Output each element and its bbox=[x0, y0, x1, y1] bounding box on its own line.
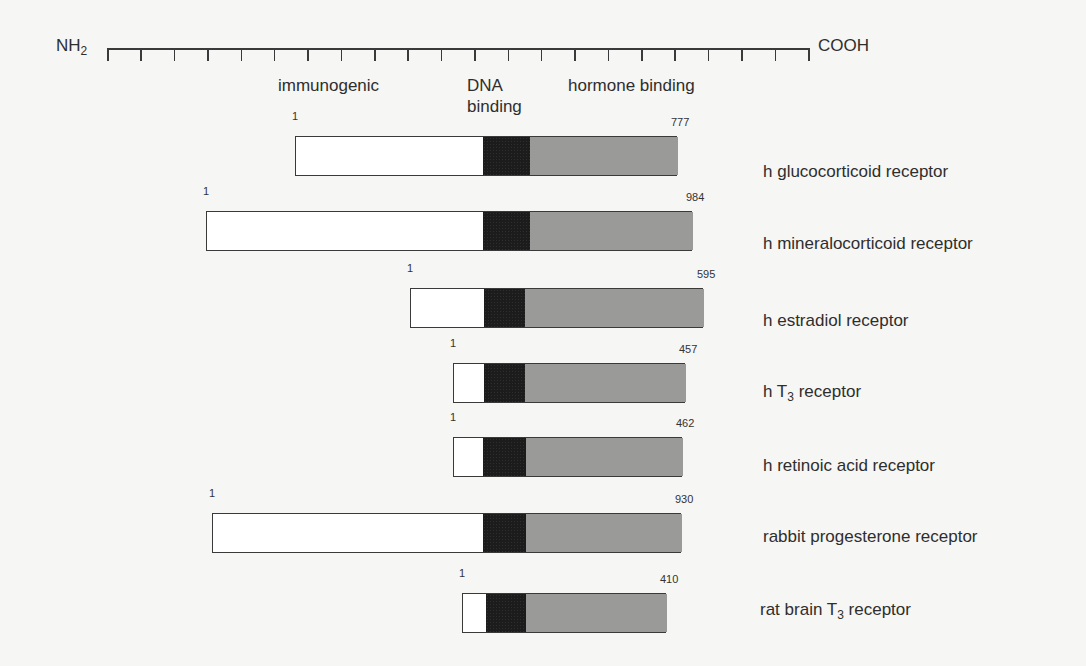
ruler-tick bbox=[541, 48, 543, 61]
ruler-tick bbox=[574, 48, 576, 61]
start-residue-number: 1 bbox=[209, 487, 215, 499]
ruler-tick bbox=[441, 48, 443, 61]
receptor-bar bbox=[462, 593, 666, 633]
hormone-binding-segment bbox=[526, 594, 667, 632]
ruler-tick bbox=[341, 48, 343, 61]
receptor-name-label: h estradiol receptor bbox=[763, 311, 909, 333]
immunogenic-segment bbox=[454, 364, 484, 402]
start-residue-number: 1 bbox=[407, 262, 413, 274]
hormone-binding-segment bbox=[530, 212, 693, 250]
start-residue-number: 1 bbox=[292, 110, 298, 122]
receptor-bar bbox=[453, 437, 682, 477]
receptor-name-label: h glucocorticoid receptor bbox=[763, 162, 948, 184]
receptor-bar bbox=[206, 211, 692, 251]
immunogenic-region-label: immunogenic bbox=[278, 75, 379, 96]
receptor-bar bbox=[453, 363, 685, 403]
receptor-name-label: h mineralocorticoid receptor bbox=[763, 234, 973, 256]
ruler-line bbox=[107, 48, 808, 50]
ruler-tick bbox=[508, 48, 510, 61]
receptor-name-label: rabbit progesterone receptor bbox=[763, 527, 978, 549]
receptor-name-label: rat brain T3 receptor bbox=[760, 600, 911, 622]
receptor-name-label: h retinoic acid receptor bbox=[763, 456, 935, 478]
ruler-tick bbox=[407, 48, 409, 61]
start-residue-number: 1 bbox=[203, 185, 209, 197]
dna-binding-segment bbox=[483, 137, 530, 175]
dna-binding-segment bbox=[484, 364, 525, 402]
ruler-tick bbox=[808, 48, 810, 61]
hormone-binding-region-label: hormone binding bbox=[568, 75, 695, 96]
dna-binding-segment bbox=[484, 289, 525, 327]
start-residue-number: 1 bbox=[450, 411, 456, 423]
start-residue-number: 1 bbox=[459, 567, 465, 579]
dna-binding-segment bbox=[483, 212, 530, 250]
end-residue-number: 777 bbox=[671, 116, 689, 128]
ruler-tick bbox=[140, 48, 142, 61]
immunogenic-segment bbox=[207, 212, 483, 250]
immunogenic-segment bbox=[454, 438, 483, 476]
dna-binding-region-label: DNA binding bbox=[467, 75, 522, 117]
immunogenic-segment bbox=[213, 514, 483, 552]
immunogenic-segment bbox=[296, 137, 483, 175]
dna-binding-segment bbox=[483, 438, 526, 476]
ruler-tick bbox=[274, 48, 276, 61]
ruler-tick bbox=[241, 48, 243, 61]
end-residue-number: 410 bbox=[660, 573, 678, 585]
ruler-tick bbox=[307, 48, 309, 61]
end-residue-number: 457 bbox=[679, 343, 697, 355]
ruler-tick bbox=[608, 48, 610, 61]
immunogenic-segment bbox=[463, 594, 486, 632]
ruler-tick bbox=[775, 48, 777, 61]
hormone-binding-segment bbox=[525, 289, 704, 327]
receptor-bar bbox=[212, 513, 681, 553]
ruler-tick bbox=[474, 48, 476, 61]
ruler-tick bbox=[207, 48, 209, 61]
hormone-binding-segment bbox=[525, 364, 686, 402]
hormone-binding-segment bbox=[526, 438, 683, 476]
receptor-bar bbox=[410, 288, 703, 328]
ruler-tick bbox=[674, 48, 676, 61]
dna-binding-segment bbox=[483, 514, 526, 552]
ruler-tick bbox=[374, 48, 376, 61]
ruler-tick bbox=[174, 48, 176, 61]
ruler-tick bbox=[107, 48, 109, 61]
receptor-bar bbox=[295, 136, 677, 176]
end-residue-number: 984 bbox=[686, 191, 704, 203]
start-residue-number: 1 bbox=[450, 337, 456, 349]
nh2-terminus-label: NH2 bbox=[56, 36, 87, 58]
receptor-name-label: h T3 receptor bbox=[763, 382, 861, 404]
end-residue-number: 930 bbox=[675, 493, 693, 505]
dna-binding-segment bbox=[486, 594, 526, 632]
ruler-tick bbox=[708, 48, 710, 61]
ruler-tick bbox=[741, 48, 743, 61]
ruler-tick bbox=[641, 48, 643, 61]
end-residue-number: 595 bbox=[697, 268, 715, 280]
cooh-terminus-label: COOH bbox=[818, 36, 869, 56]
hormone-binding-segment bbox=[526, 514, 682, 552]
hormone-binding-segment bbox=[530, 137, 678, 175]
end-residue-number: 462 bbox=[676, 417, 694, 429]
immunogenic-segment bbox=[411, 289, 484, 327]
